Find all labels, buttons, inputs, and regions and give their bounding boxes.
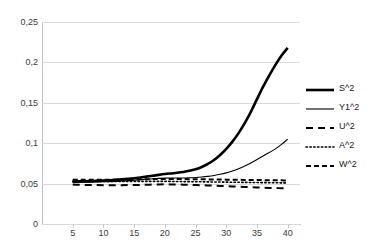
legend-swatch-icon	[305, 139, 335, 151]
legend-label: S^2	[339, 83, 354, 93]
x-tick-mark	[134, 224, 135, 228]
legend-item[interactable]: Y1^2	[305, 97, 380, 116]
x-tick-label: 20	[160, 228, 170, 238]
series-line-y12	[73, 139, 288, 182]
y-tick-label: 0,2	[25, 57, 38, 67]
series-line-s2	[73, 48, 288, 182]
legend-swatch-icon	[305, 158, 335, 170]
series-lines	[42, 22, 300, 224]
x-tick-mark	[73, 224, 74, 228]
legend-label: Y1^2	[339, 102, 359, 112]
chart-container: 00,050,10,150,20,25 510152025303540 S^2Y…	[0, 0, 380, 249]
series-line-u2	[73, 184, 288, 188]
legend-label: U^2	[339, 121, 355, 131]
x-tick-label: 15	[129, 228, 139, 238]
chart-legend: S^2Y1^2U^2A^2W^2	[305, 78, 380, 173]
gridline	[42, 224, 300, 225]
legend-item[interactable]: A^2	[305, 135, 380, 154]
x-tick-label: 30	[221, 228, 231, 238]
x-tick-mark	[226, 224, 227, 228]
legend-swatch-icon	[305, 120, 335, 132]
y-tick-label: 0,05	[20, 179, 38, 189]
y-tick-label: 0,25	[20, 17, 38, 27]
y-tick-label: 0,1	[25, 138, 38, 148]
x-tick-label: 25	[191, 228, 201, 238]
series-line-w2	[73, 179, 288, 181]
legend-item[interactable]: U^2	[305, 116, 380, 135]
y-tick-label: 0	[33, 219, 38, 229]
x-tick-mark	[257, 224, 258, 228]
x-tick-label: 10	[98, 228, 108, 238]
y-tick-label: 0,15	[20, 98, 38, 108]
x-tick-label: 5	[70, 228, 75, 238]
x-tick-mark	[165, 224, 166, 228]
legend-swatch-icon	[305, 82, 335, 94]
legend-item[interactable]: W^2	[305, 154, 380, 173]
legend-label: W^2	[339, 159, 357, 169]
legend-item[interactable]: S^2	[305, 78, 380, 97]
plot-area	[42, 22, 300, 224]
legend-swatch-icon	[305, 101, 335, 113]
x-tick-mark	[196, 224, 197, 228]
y-axis-tick-labels: 00,050,10,150,20,25	[0, 0, 38, 249]
x-tick-mark	[288, 224, 289, 228]
legend-label: A^2	[339, 140, 354, 150]
x-tick-label: 35	[252, 228, 262, 238]
x-tick-mark	[103, 224, 104, 228]
x-tick-label: 40	[283, 228, 293, 238]
